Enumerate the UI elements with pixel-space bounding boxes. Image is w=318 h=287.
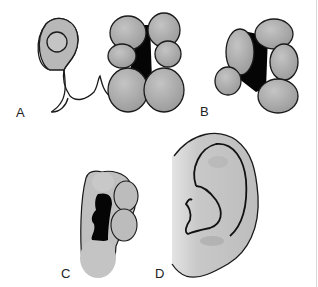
panel-label-a: A xyxy=(16,105,25,120)
panel-c-auricle xyxy=(80,171,138,278)
panel-d-ear xyxy=(172,133,258,277)
panel-label-d: D xyxy=(155,266,164,281)
panel-label-c: C xyxy=(61,266,70,281)
frame-border xyxy=(316,0,317,287)
diagram-figure: A B C D xyxy=(0,0,318,287)
panel-a-cell xyxy=(38,18,110,112)
panel-label-b: B xyxy=(200,104,209,119)
panel-b-hillocks xyxy=(215,19,298,113)
panel-a-hillocks xyxy=(108,13,184,112)
